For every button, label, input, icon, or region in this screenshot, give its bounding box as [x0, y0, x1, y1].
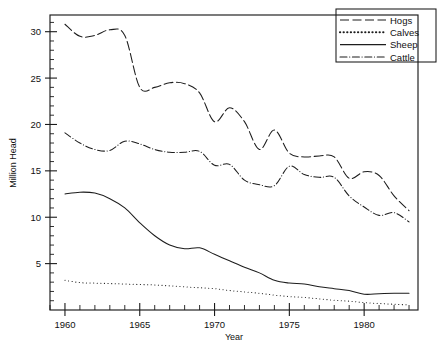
legend-label-sheep: Sheep — [390, 39, 417, 50]
y-axis-tick-label: 5 — [36, 258, 41, 269]
y-axis-tick-label: 10 — [30, 212, 41, 223]
y-axis-title: Million Head — [8, 138, 18, 188]
x-axis-tick-label: 1965 — [129, 319, 150, 330]
x-axis-tick-label: 1980 — [354, 319, 375, 330]
y-axis-tick-label: 15 — [30, 165, 41, 176]
x-axis-tick-label: 1975 — [279, 319, 300, 330]
y-axis-tick-label: 30 — [30, 26, 41, 37]
legend-label-cattle: Cattle — [390, 52, 415, 63]
livestock-inventory-line-chart: 51015202530 19601965197019751980 Million… — [0, 0, 442, 346]
x-axis-title: Year — [225, 332, 243, 342]
x-axis-tick-label: 1970 — [204, 319, 225, 330]
y-axis-tick-label: 20 — [30, 119, 41, 130]
y-axis-tick-label: 25 — [30, 73, 41, 84]
legend-label-calves: Calves — [390, 27, 419, 38]
legend-label-hogs: Hogs — [390, 15, 412, 26]
x-axis-tick-label: 1960 — [54, 319, 75, 330]
